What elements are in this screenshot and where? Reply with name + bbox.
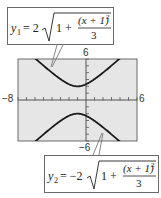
eq-y1-num: (x + 1): [78, 14, 109, 27]
y-axis-min-label: −6: [79, 143, 90, 153]
eq-y1-lhs: y: [10, 21, 17, 35]
eq-y2-exp: 2: [151, 161, 155, 169]
equation-callout-y1: y 1 = 2 1 + (x + 1) 2 3: [7, 7, 114, 45]
x-axis-max-label: 6: [139, 94, 145, 104]
eq-y2-den: 3: [136, 177, 142, 189]
eq-y1-sub: 1: [17, 28, 21, 37]
eq-y1-exp: 2: [106, 13, 110, 21]
graph-figure: 6 −6 −8 6 y 1 = 2 1 + (x + 1) 2 3 y 2 = …: [0, 0, 161, 198]
eq-y2-coef: = −2: [60, 169, 83, 183]
eq-y2-num: (x + 1): [123, 162, 154, 175]
y-axis-max-label: 6: [83, 48, 89, 58]
eq-y1-coef: = 2: [23, 21, 39, 35]
x-axis-min-label: −8: [2, 94, 13, 104]
eq-y2-sub: 2: [54, 176, 58, 185]
eq-y1-den: 3: [91, 29, 97, 41]
equation-y2: y 2 = −2 1 + (x + 1) 2 3: [45, 156, 158, 192]
equation-callout-y2: y 2 = −2 1 + (x + 1) 2 3: [44, 155, 159, 193]
eq-y2-lhs: y: [47, 169, 54, 183]
eq-y1-one: 1 +: [56, 21, 72, 35]
equation-y1: y 1 = 2 1 + (x + 1) 2 3: [8, 8, 113, 44]
eq-y2-one: 1 +: [101, 169, 117, 183]
